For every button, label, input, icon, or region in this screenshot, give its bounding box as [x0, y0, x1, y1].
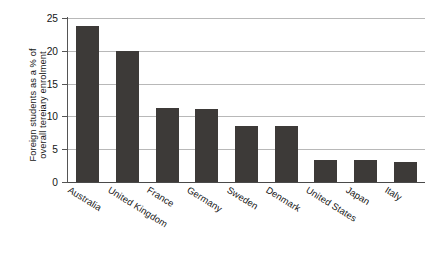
y-axis-title: Foreign students as a % of overall terei…	[21, 15, 55, 195]
x-axis-label: Japan	[344, 184, 372, 207]
bar[interactable]	[354, 160, 377, 182]
x-axis-label: Italy	[383, 184, 404, 203]
y-axis-tick-label: 10	[18, 111, 58, 122]
y-axis-tick	[62, 182, 67, 183]
x-axis-label: France	[145, 184, 176, 209]
bar[interactable]	[275, 126, 298, 182]
x-axis-label: Australia	[66, 184, 104, 213]
x-axis-category-labels: AustraliaUnited KingdomFranceGermanySwed…	[68, 184, 425, 258]
y-axis-tick	[62, 149, 67, 150]
y-axis-tick-label: 5	[18, 144, 58, 155]
y-axis-tick	[62, 116, 67, 117]
x-axis-label: Germany	[185, 184, 224, 214]
x-axis-label: Sweden	[225, 184, 260, 212]
y-axis-tick-label: 20	[18, 45, 58, 56]
bar[interactable]	[116, 51, 139, 182]
y-axis-tick	[62, 51, 67, 52]
y-axis-tick	[62, 18, 67, 19]
bar[interactable]	[156, 108, 179, 182]
bar-series	[68, 18, 425, 182]
bar[interactable]	[314, 160, 337, 182]
y-axis-tick-label: 15	[18, 78, 58, 89]
plot-area	[68, 18, 425, 182]
bar[interactable]	[235, 126, 258, 182]
bar-chart-figure: Foreign students as a % of overall terei…	[0, 0, 444, 260]
y-axis-tick-label: 0	[18, 177, 58, 188]
y-axis-tick-label: 25	[18, 13, 58, 24]
x-axis-label: Denmark	[264, 184, 303, 214]
bar[interactable]	[394, 162, 417, 182]
y-axis-tick	[62, 84, 67, 85]
y-axis-title-line-2: overall tereiary enrolment	[38, 51, 48, 159]
bar[interactable]	[76, 26, 99, 182]
gridline	[68, 182, 425, 183]
bar[interactable]	[195, 109, 218, 182]
